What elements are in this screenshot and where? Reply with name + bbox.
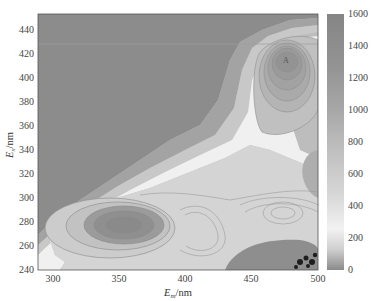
cbar-tick-1600: 1600 xyxy=(348,8,368,19)
y-tick-240: 240 xyxy=(19,264,34,275)
cbar-tick-200: 200 xyxy=(348,232,363,243)
colorbar-gradient xyxy=(327,14,344,270)
y-tick-280: 280 xyxy=(19,216,34,227)
x-tick-400: 400 xyxy=(178,273,193,284)
y-tick-300: 300 xyxy=(19,192,34,203)
contour-plot-area: A xyxy=(38,14,318,270)
cbar-tick-800: 800 xyxy=(348,136,363,147)
peak-A-label: A xyxy=(283,56,289,65)
eem-contour-figure: A xyxy=(0,0,371,301)
x-tick-500: 500 xyxy=(311,273,326,284)
peak-A xyxy=(254,36,318,134)
cbar-tick-1200: 1200 xyxy=(348,72,368,83)
y-tick-420: 420 xyxy=(19,48,34,59)
cbar-tick-600: 600 xyxy=(348,168,363,179)
x-tick-350: 350 xyxy=(112,273,127,284)
y-tick-340: 340 xyxy=(19,144,34,155)
y-axis-label: Ex/nm xyxy=(4,132,17,159)
cbar-tick-1400: 1400 xyxy=(348,40,368,51)
cbar-tick-1000: 1000 xyxy=(348,104,368,115)
cbar-tick-400: 400 xyxy=(348,200,363,211)
y-tick-380: 380 xyxy=(19,96,34,107)
peak-ellipse xyxy=(45,198,175,258)
cbar-tick-0: 0 xyxy=(348,264,353,275)
x-axis-label: Em/nm xyxy=(163,287,192,300)
y-tick-320: 320 xyxy=(19,168,34,179)
x-tick-300: 300 xyxy=(46,273,61,284)
y-tick-360: 360 xyxy=(19,120,34,131)
y-tick-400: 400 xyxy=(19,72,34,83)
x-axis: 300 350 400 450 500 Em/nm xyxy=(46,273,326,300)
y-tick-260: 260 xyxy=(19,240,34,251)
y-tick-440: 440 xyxy=(19,24,34,35)
colorbar: 0 200 400 600 800 1000 1200 1400 1600 xyxy=(327,8,368,275)
y-axis: 240 260 280 300 320 340 360 380 400 420 … xyxy=(4,24,34,275)
x-tick-450: 450 xyxy=(244,273,259,284)
